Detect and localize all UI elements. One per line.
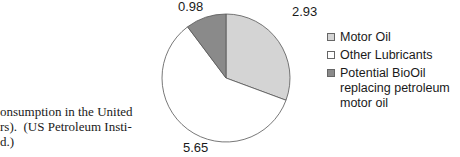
chart-legend: Motor Oil Other Lubricants Potential Bio… (327, 30, 455, 114)
legend-label: Potential BioOil replacing petroleum mot… (340, 66, 455, 111)
legend-swatch-motor-oil (327, 33, 335, 41)
legend-label: Other Lubricants (340, 48, 455, 63)
pie-slices (162, 14, 290, 142)
caption-line: d.) (0, 134, 133, 149)
label-bioil: 0.98 (178, 0, 203, 14)
figure-caption: onsumption in the Unitedrs). (US Petrole… (0, 104, 133, 149)
legend-item-bioil: Potential BioOil replacing petroleum mot… (327, 66, 455, 111)
legend-swatch-bioil (327, 69, 335, 77)
legend-item-other-lubricants: Other Lubricants (327, 48, 455, 63)
label-other-lubricants: 5.65 (183, 140, 208, 155)
legend-item-motor-oil: Motor Oil (327, 30, 455, 45)
legend-swatch-other-lubricants (327, 51, 335, 59)
legend-label: Motor Oil (340, 30, 455, 45)
caption-line: onsumption in the United (0, 104, 133, 119)
caption-line: rs). (US Petroleum Insti- (0, 119, 133, 134)
label-motor-oil: 2.93 (292, 4, 317, 19)
